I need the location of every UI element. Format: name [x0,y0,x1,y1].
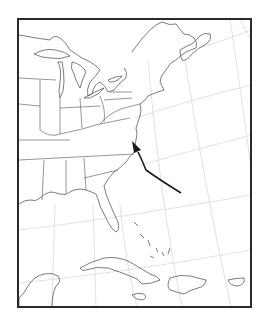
map [0,0,264,323]
background [0,0,264,323]
